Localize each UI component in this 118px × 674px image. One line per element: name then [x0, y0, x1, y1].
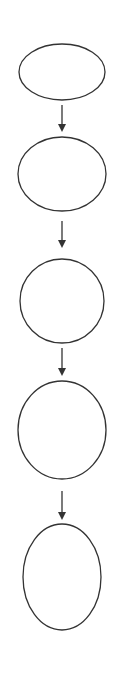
arrows-group — [58, 105, 66, 520]
ellipse-node-4 — [18, 381, 106, 479]
ellipse-node-5 — [23, 524, 101, 630]
arrow-4 — [58, 491, 66, 520]
ellipse-node-1 — [19, 44, 105, 100]
arrowhead-icon — [58, 240, 66, 248]
ellipse-node-3 — [20, 259, 104, 343]
arrow-1 — [58, 105, 66, 132]
arrowhead-icon — [58, 368, 66, 376]
flow-diagram — [0, 0, 118, 674]
arrow-2 — [58, 221, 66, 248]
arrowhead-icon — [58, 124, 66, 132]
ellipse-node-2 — [18, 137, 106, 211]
arrowhead-icon — [58, 512, 66, 520]
arrow-3 — [58, 348, 66, 376]
